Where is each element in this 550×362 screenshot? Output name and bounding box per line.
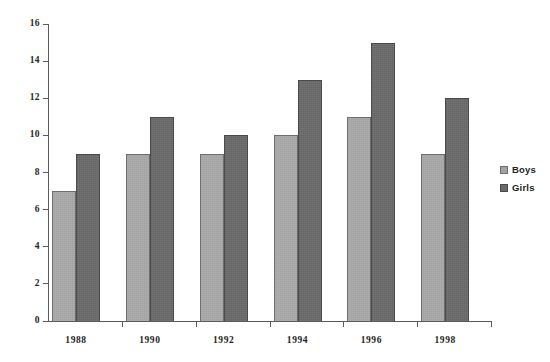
x-tick-mark	[417, 321, 418, 327]
x-axis-label-1994: 1994	[258, 336, 338, 346]
bar-boys-1996	[347, 117, 371, 321]
plot-area	[48, 24, 490, 321]
bar-boys-1994	[274, 135, 298, 321]
x-tick-mark	[196, 321, 197, 327]
y-tick-label: 8	[14, 168, 40, 178]
x-axis-label-1998: 1998	[405, 336, 485, 346]
y-tick-label: 12	[14, 93, 40, 103]
bar-girls-1990	[150, 117, 174, 321]
bar-chart: 0246810121416 198819901992199419961998 B…	[0, 0, 550, 362]
bar-boys-1992	[200, 154, 224, 321]
bar-girls-1992	[224, 135, 248, 321]
legend-label-girls: Girls	[512, 183, 535, 193]
x-tick-mark	[270, 321, 271, 327]
legend: BoysGirls	[500, 163, 536, 199]
y-tick-label: 2	[14, 279, 40, 289]
y-tick-label: 16	[14, 19, 40, 29]
y-tick-label: 0	[14, 316, 40, 326]
bar-girls-1988	[76, 154, 100, 321]
y-tick-label: 6	[14, 205, 40, 215]
x-axis-label-1992: 1992	[184, 336, 264, 346]
x-axis-label-1990: 1990	[110, 336, 190, 346]
legend-item-boys[interactable]: Boys	[500, 163, 536, 177]
bar-girls-1994	[298, 80, 322, 321]
bar-girls-1998	[445, 98, 469, 321]
bar-boys-1998	[421, 154, 445, 321]
y-tick-label: 14	[14, 56, 40, 66]
legend-swatch-girls-icon	[500, 184, 508, 192]
legend-item-girls[interactable]: Girls	[500, 181, 536, 195]
x-tick-mark	[343, 321, 344, 327]
y-tick-label: 4	[14, 242, 40, 252]
x-tick-mark-end	[491, 321, 492, 327]
x-axis-label-1996: 1996	[331, 336, 411, 346]
legend-label-boys: Boys	[512, 165, 536, 175]
bar-girls-1996	[371, 43, 395, 321]
x-tick-mark	[122, 321, 123, 327]
y-tick-label: 10	[14, 130, 40, 140]
x-axis-label-1988: 1988	[36, 336, 116, 346]
bar-boys-1988	[52, 191, 76, 321]
bar-boys-1990	[126, 154, 150, 321]
legend-swatch-boys-icon	[500, 166, 508, 174]
